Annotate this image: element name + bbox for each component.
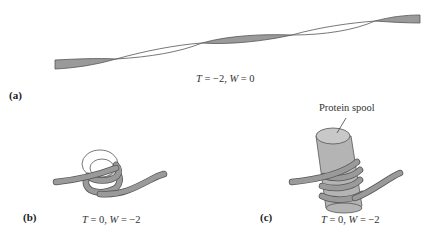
panel-b-label: (b): [23, 211, 36, 223]
panel-a-twisted-ribbon: [55, 15, 420, 69]
panel-b-caption: T = 0, W = −2: [82, 214, 141, 225]
writhe-symbol: W: [349, 214, 358, 225]
panel-c-caption: T = 0, W = −2: [321, 214, 380, 225]
panel-b-coiled-ribbon: [56, 150, 164, 194]
protein-spool-callout: Protein spool: [319, 102, 375, 113]
panel-c-protein-spool: [292, 118, 400, 213]
writhe-symbol: W: [110, 214, 119, 225]
writhe-symbol: W: [229, 73, 238, 84]
panel-a-label: (a): [9, 89, 22, 101]
panel-c-label: (c): [260, 211, 272, 223]
supercoil-figure: [0, 0, 435, 238]
panel-a-caption: T = −2, W = 0: [196, 73, 255, 84]
